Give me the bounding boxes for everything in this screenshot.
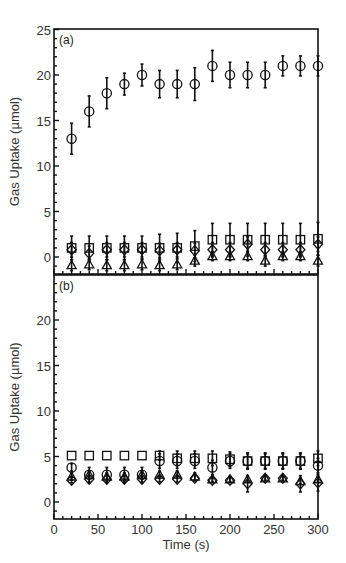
y-tick-label: 0 [44,250,51,265]
panel-b: 05101520050100150200250300Gas Uptake (µm… [7,275,329,537]
square-marker-icon [67,451,75,459]
x-tick-label: 250 [263,522,285,537]
y-tick-label: 10 [37,404,51,419]
gas-uptake-chart: 0510152025Gas Uptake (µmol)(a) 051015200… [0,0,346,563]
square-marker-icon [138,451,146,459]
panel-label: (a) [59,33,74,47]
x-tick-label: 0 [50,522,57,537]
y-axis-title: Gas Uptake (µmol) [7,97,22,206]
y-tick-label: 20 [37,313,51,328]
x-tick-label: 150 [175,522,197,537]
x-tick-label: 100 [131,522,153,537]
series-triangle [67,252,322,271]
square-marker-icon [120,451,128,459]
square-marker-icon [85,451,93,459]
x-axis-title: Time (s) [162,537,209,552]
y-axis-title: Gas Uptake (µmol) [7,342,22,451]
square-marker-icon [103,451,111,459]
y-tick-label: 20 [37,68,51,83]
x-tick-label: 50 [91,522,105,537]
y-tick-label: 5 [44,450,51,465]
x-tick-label: 300 [307,522,329,537]
y-tick-label: 5 [44,205,51,220]
y-tick-label: 15 [37,114,51,129]
x-tick-label: 200 [219,522,241,537]
y-tick-label: 0 [44,495,51,510]
panel-label: (b) [59,279,74,293]
series-circle [67,50,323,154]
y-tick-label: 25 [37,23,51,38]
panel-a: 0510152025Gas Uptake (µmol)(a) [7,23,323,275]
series-diamond [67,473,322,492]
y-tick-label: 10 [37,159,51,174]
y-tick-label: 15 [37,359,51,374]
